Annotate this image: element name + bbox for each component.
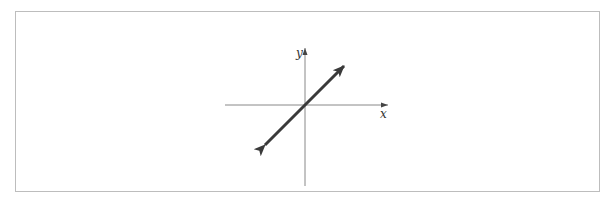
- y-axis-label: y: [295, 46, 303, 60]
- coordinate-plane: x y: [0, 0, 613, 202]
- x-axis-label: x: [380, 107, 387, 121]
